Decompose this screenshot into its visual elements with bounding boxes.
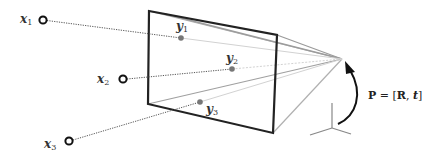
world-points xyxy=(39,16,126,144)
image-point-y3 xyxy=(197,99,203,105)
world-point-label-x3: x3 xyxy=(44,138,56,154)
image-point-rays xyxy=(181,38,342,102)
diagram-canvas xyxy=(0,0,440,156)
world-point-label-x2: x2 xyxy=(97,73,109,89)
pose-label: P = [R, t] xyxy=(368,89,422,102)
world-point-x2 xyxy=(119,75,126,82)
image-point-label-y3: y3 xyxy=(206,103,218,119)
image-point-label-y2: y2 xyxy=(226,52,238,68)
image-point-label-y1: y1 xyxy=(176,20,188,36)
image-point-y1 xyxy=(178,35,184,41)
world-point-x1 xyxy=(39,16,46,23)
world-point-label-x1: x1 xyxy=(20,13,32,29)
pose-arrow-icon xyxy=(338,61,357,124)
world-to-image-rays xyxy=(47,21,232,141)
camera-projection-diagram: x1 x2 x3 y1 y2 y3 P = [R, t] xyxy=(0,0,440,156)
world-point-x3 xyxy=(65,137,72,144)
